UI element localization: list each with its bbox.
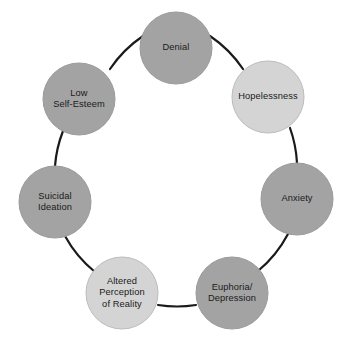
node-circle-hopelessness[interactable]	[232, 61, 304, 133]
connector-hopelessness-to-anxiety	[290, 128, 297, 163]
connector-suicidal-ideation-to-low-self-esteem	[55, 131, 63, 166]
cycle-diagram-canvas	[0, 0, 352, 342]
node-circle-denial[interactable]	[140, 12, 212, 84]
node-circle-group	[19, 12, 333, 329]
node-circle-low-self-esteem[interactable]	[43, 63, 115, 135]
connector-altered-perception-to-suicidal-ideation	[65, 236, 95, 272]
node-circle-altered-perception-of-reality[interactable]	[86, 257, 158, 329]
node-circle-suicidal-ideation[interactable]	[19, 166, 91, 238]
node-circle-anxiety[interactable]	[261, 163, 333, 235]
connector-denial-to-hopelessness	[210, 36, 243, 69]
connector-anxiety-to-euphoria-depression	[258, 234, 288, 271]
connector-low-self-esteem-to-denial	[110, 36, 143, 69]
node-circle-euphoria-depression[interactable]	[196, 257, 268, 329]
connector-euphoria-depression-to-altered-perception	[158, 305, 196, 306]
cycle-diagram: Denial Hopelessness Anxiety Euphoria/ De…	[0, 0, 352, 342]
